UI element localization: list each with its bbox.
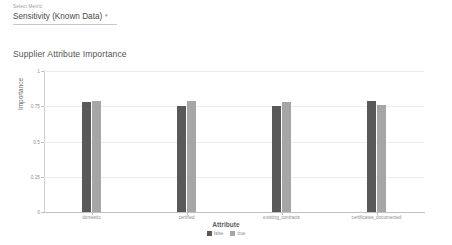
y-tick-label: 1: [37, 69, 40, 74]
y-tick-label: 0.75: [31, 104, 40, 109]
bar-group: existing_contracts: [234, 71, 329, 212]
bar-group: domestic: [44, 71, 139, 212]
bar-group: certificates_documented: [329, 71, 424, 212]
bar-chart: Importance 00.250.50.751domesticcertifie…: [0, 0, 452, 245]
bar-true[interactable]: [187, 101, 196, 212]
bar-true[interactable]: [377, 105, 386, 212]
bar-true[interactable]: [282, 102, 291, 212]
bar-group-bars: [234, 71, 329, 212]
bar-true[interactable]: [92, 101, 101, 212]
legend-item-false[interactable]: false: [207, 231, 224, 236]
x-tick-label: certified: [178, 215, 194, 220]
bar-false[interactable]: [272, 106, 281, 212]
legend-swatch-icon: [207, 231, 212, 236]
y-axis-title: Importance: [17, 78, 24, 110]
y-tick-mark: [41, 212, 44, 213]
bar-group-bars: [139, 71, 234, 212]
bar-group-bars: [44, 71, 139, 212]
bar-false[interactable]: [177, 106, 186, 212]
legend-label: true: [237, 231, 245, 236]
x-tick-label: existing_contracts: [263, 215, 300, 220]
y-tick-label: 0: [37, 210, 40, 215]
x-tick-label: domestic: [82, 215, 100, 220]
x-tick-label: certificates_documented: [352, 215, 402, 220]
legend-label: false: [214, 231, 224, 236]
bar-false[interactable]: [367, 101, 376, 212]
x-axis-title: Attribute: [0, 221, 452, 228]
plot-area: 00.250.50.751domesticcertifiedexisting_c…: [44, 71, 424, 212]
y-tick-label: 0.25: [31, 174, 40, 179]
y-tick-label: 0.5: [33, 139, 40, 144]
legend-swatch-icon: [230, 231, 235, 236]
bar-group: certified: [139, 71, 234, 212]
bar-false[interactable]: [82, 102, 91, 212]
chart-legend: falsetrue: [0, 231, 452, 236]
bar-group-bars: [329, 71, 424, 212]
legend-item-true[interactable]: true: [230, 231, 245, 236]
x-axis-line: [44, 212, 425, 213]
